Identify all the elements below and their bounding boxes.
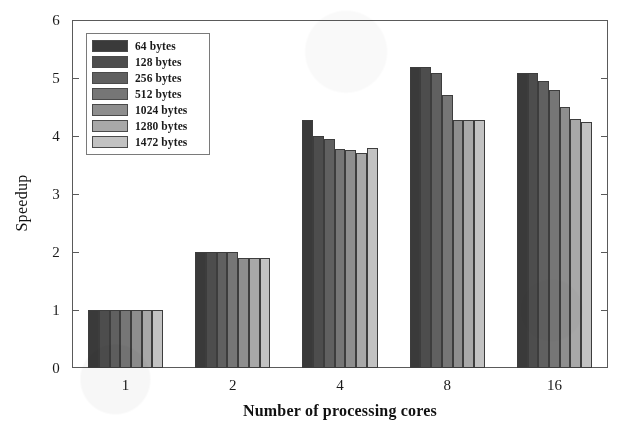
y-tick-label-3: 3 (52, 186, 60, 203)
bar-16-cores-128-bytes (528, 73, 539, 368)
legend-swatch-icon (92, 40, 128, 52)
bar-16-cores-1280-bytes (570, 119, 581, 368)
legend-item-1472-bytes: 1472 bytes (92, 134, 204, 149)
y-axis-title: Speedup (13, 123, 31, 283)
legend-swatch-icon (92, 104, 128, 116)
y-tick-label-4: 4 (52, 128, 60, 145)
bar-8-cores-1024-bytes (453, 120, 464, 368)
legend-item-label: 256 bytes (135, 72, 182, 84)
bar-2-cores-1024-bytes (238, 258, 249, 368)
speedup-bar-chart: 0123456 Speedup 124816 Number of process… (0, 0, 641, 431)
legend-item-512-bytes: 512 bytes (92, 86, 204, 101)
y-tick-mark-4 (72, 136, 79, 137)
bar-16-cores-512-bytes (549, 90, 560, 368)
x-tick-label-8: 8 (443, 377, 451, 394)
bar-1-cores-512-bytes (120, 310, 131, 368)
bar-1-cores-1472-bytes (152, 310, 163, 368)
bar-4-cores-64-bytes (302, 120, 313, 368)
bar-2-cores-1280-bytes (249, 258, 260, 368)
bar-8-cores-1472-bytes (474, 120, 485, 368)
bar-4-cores-1280-bytes (356, 153, 367, 368)
legend-item-label: 1024 bytes (135, 104, 187, 116)
legend-swatch-icon (92, 56, 128, 68)
x-tick-label-16: 16 (547, 377, 562, 394)
bar-1-cores-64-bytes (88, 310, 99, 368)
y-tick-mark-1 (72, 310, 79, 311)
legend-item-label: 128 bytes (135, 56, 182, 68)
y-tick-mark-2 (72, 252, 79, 253)
legend-swatch-icon (92, 88, 128, 100)
bar-2-cores-128-bytes (206, 252, 217, 368)
y-tick-mark-right-2 (601, 252, 608, 253)
bar-4-cores-256-bytes (324, 139, 335, 368)
y-tick-mark-5 (72, 78, 79, 79)
y-tick-mark-right-1 (601, 310, 608, 311)
legend-item-1280-bytes: 1280 bytes (92, 118, 204, 133)
bar-1-cores-1024-bytes (131, 310, 142, 368)
legend-item-64-bytes: 64 bytes (92, 38, 204, 53)
y-tick-mark-3 (72, 194, 79, 195)
legend-swatch-icon (92, 136, 128, 148)
bar-1-cores-256-bytes (110, 310, 121, 368)
y-tick-label-0: 0 (52, 360, 60, 377)
bar-4-cores-128-bytes (313, 136, 324, 368)
bar-1-cores-128-bytes (99, 310, 110, 368)
bar-16-cores-256-bytes (538, 81, 549, 368)
bar-16-cores-1024-bytes (560, 107, 571, 368)
y-tick-label-2: 2 (52, 244, 60, 261)
x-tick-label-4: 4 (336, 377, 344, 394)
y-tick-mark-right-4 (601, 136, 608, 137)
legend-item-256-bytes: 256 bytes (92, 70, 204, 85)
bar-2-cores-512-bytes (227, 252, 238, 368)
legend-item-label: 1472 bytes (135, 136, 187, 148)
bar-8-cores-128-bytes (420, 67, 431, 368)
x-tick-label-1: 1 (122, 377, 130, 394)
bar-16-cores-64-bytes (517, 73, 528, 368)
bar-4-cores-1472-bytes (367, 148, 378, 368)
bar-8-cores-512-bytes (442, 95, 453, 368)
legend: 64 bytes128 bytes256 bytes512 bytes1024 … (86, 33, 210, 155)
bar-8-cores-1280-bytes (463, 120, 474, 368)
y-tick-label-1: 1 (52, 302, 60, 319)
legend-item-label: 1280 bytes (135, 120, 187, 132)
bar-16-cores-1472-bytes (581, 122, 592, 369)
bar-2-cores-256-bytes (217, 252, 228, 368)
bar-2-cores-1472-bytes (260, 258, 271, 368)
legend-swatch-icon (92, 72, 128, 84)
bar-2-cores-64-bytes (195, 252, 206, 368)
legend-item-label: 512 bytes (135, 88, 182, 100)
legend-item-label: 64 bytes (135, 40, 176, 52)
legend-item-1024-bytes: 1024 bytes (92, 102, 204, 117)
bar-8-cores-256-bytes (431, 73, 442, 368)
legend-swatch-icon (92, 120, 128, 132)
y-axis: 0123456 (0, 0, 72, 431)
bar-1-cores-1280-bytes (142, 310, 153, 368)
x-axis-title: Number of processing cores (72, 402, 608, 420)
y-tick-label-5: 5 (52, 70, 60, 87)
bar-4-cores-1024-bytes (345, 150, 356, 368)
y-tick-mark-right-3 (601, 194, 608, 195)
bar-8-cores-64-bytes (410, 67, 421, 368)
x-tick-label-2: 2 (229, 377, 237, 394)
bar-4-cores-512-bytes (335, 149, 346, 368)
y-tick-mark-right-5 (601, 78, 608, 79)
y-tick-label-6: 6 (52, 12, 60, 29)
legend-item-128-bytes: 128 bytes (92, 54, 204, 69)
